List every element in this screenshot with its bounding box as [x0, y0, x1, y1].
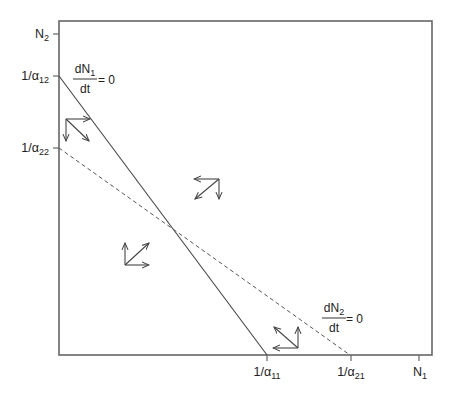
x-label-inv-a21: 1/α21: [337, 365, 365, 381]
isocline-n1-solid-line: [59, 76, 267, 355]
y-label-inv-a12: 1/α12: [21, 69, 49, 85]
arrow-down-right-icon: [66, 119, 89, 141]
arrow-down-left-icon: [195, 179, 219, 199]
isocline-n1-label: dN1 dt = 0: [73, 62, 115, 96]
x-axis: 1/α11 1/α21 N1: [254, 355, 428, 381]
arrow-up-right-icon: [125, 243, 149, 265]
phase-plane-diagram: N2 1/α12 1/α22 1/α11 1/α21 N1 dN1 dt = 0…: [0, 0, 459, 396]
isocline-n1-numerator: dN1: [75, 62, 95, 78]
y-label-inv-a22: 1/α22: [21, 141, 49, 157]
y-label-n2: N2: [35, 27, 49, 43]
isocline-n2-label: dN2 dt = 0: [322, 301, 363, 335]
isocline-n1-denominator: dt: [80, 82, 91, 96]
vector-group-lower-right: [273, 327, 298, 348]
isocline-n2-equals: = 0: [346, 312, 363, 326]
isocline-n2-numerator: dN2: [324, 301, 344, 317]
x-label-inv-a11: 1/α11: [254, 365, 281, 381]
plot-frame: [59, 21, 432, 355]
vector-group-upper-right: [194, 179, 219, 199]
arrow-up-left-icon: [274, 327, 298, 348]
isocline-n2-denominator: dt: [329, 321, 340, 335]
x-label-n1: N1: [413, 365, 427, 381]
isocline-n1-equals: = 0: [98, 73, 115, 87]
y-axis: N2 1/α12 1/α22: [21, 27, 59, 157]
vector-group-lower-left: [125, 243, 149, 265]
vector-group-upper-left: [66, 119, 90, 141]
